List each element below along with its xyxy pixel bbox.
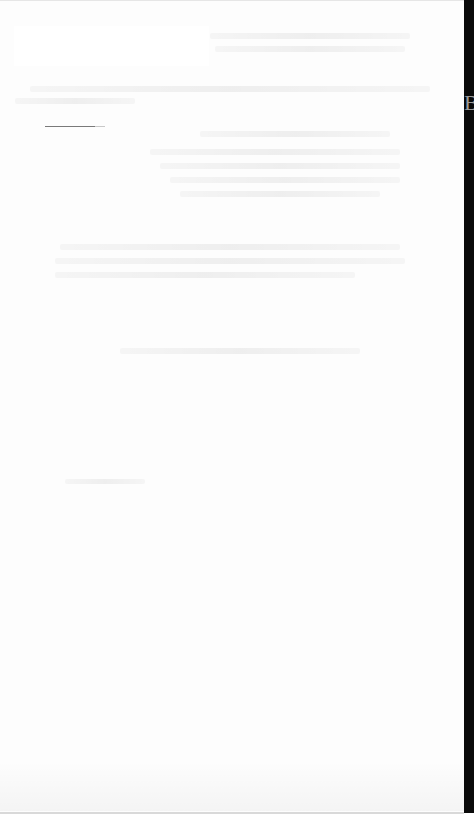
faint-text-line [170, 177, 400, 183]
faint-text-line [210, 33, 410, 39]
faint-text-line [200, 131, 390, 137]
faint-text-line [65, 479, 145, 484]
faint-text-line [180, 191, 380, 197]
dash-mark [45, 126, 95, 127]
blank-header-region [14, 26, 209, 66]
bottom-scan-noise [0, 761, 464, 811]
faint-text-line [215, 46, 405, 52]
faint-text-line [60, 244, 400, 250]
faint-text-line [160, 163, 400, 169]
document-page [0, 0, 464, 814]
faint-text-line [55, 258, 405, 264]
faint-text-line [150, 149, 400, 155]
faint-text-line [120, 348, 360, 354]
faint-text-line [55, 272, 355, 278]
faint-text-line [15, 98, 135, 104]
faint-text-line [30, 86, 430, 92]
edge-glyph: B [464, 75, 474, 130]
